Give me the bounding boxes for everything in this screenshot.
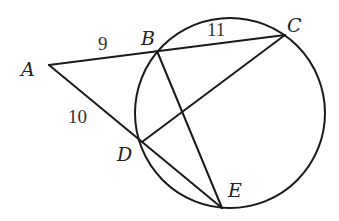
point-label-c: C [287,14,302,36]
segment-ae [49,65,222,208]
length-label-ab: 9 [98,33,108,54]
length-label-bc: 11 [207,19,225,40]
geometry-diagram: A B C D E 9 11 10 [0,0,339,221]
point-label-b: B [140,27,155,49]
length-label-ad: 10 [68,106,87,127]
point-label-a: A [19,58,35,80]
point-label-e: E [227,179,242,201]
point-label-d: D [116,143,132,165]
